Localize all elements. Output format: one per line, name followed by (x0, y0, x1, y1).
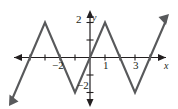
coordinate-plot (0, 0, 178, 109)
x-axis-left-arrowhead (14, 54, 22, 61)
y-axis-bottom-arrowhead (87, 99, 94, 107)
x-tick-label-minus-2: −2 (52, 60, 64, 71)
x-tick-label-3: 3 (133, 60, 139, 71)
y-tick-label-2: 2 (76, 14, 82, 25)
y-tick-label-minus-2: −2 (77, 80, 89, 91)
y-axis-label: y (92, 12, 96, 23)
graph-figure: 2 −2 −2 1 3 y x (0, 0, 178, 109)
x-axis-label: x (164, 60, 168, 71)
x-tick-label-1: 1 (103, 60, 109, 71)
